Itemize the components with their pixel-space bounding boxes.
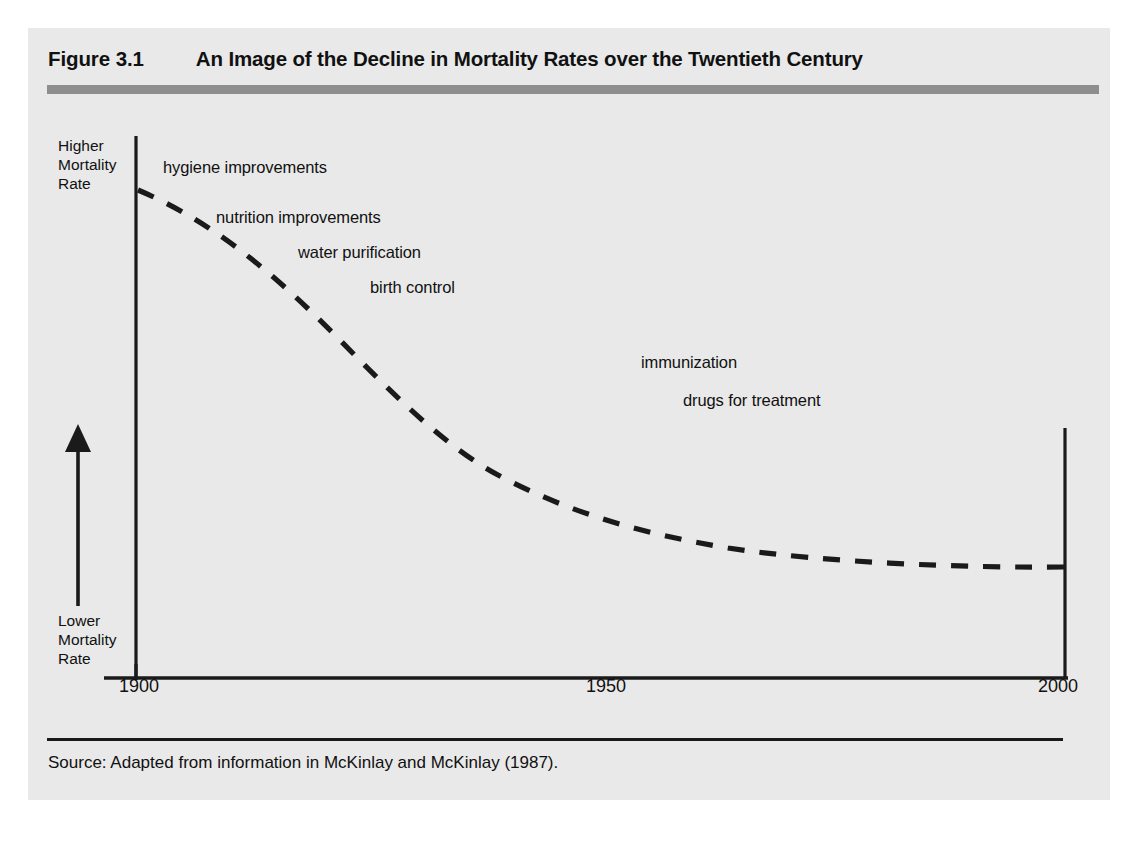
annotation-immunization: immunization [641,353,737,372]
source-note: Source: Adapted from information in McKi… [48,753,558,773]
annotation-hygiene-improvements: hygiene improvements [163,158,327,177]
annotation-birth-control: birth control [370,278,455,297]
mortality-decline-curve [138,190,1065,567]
annotation-drugs-for-treatment: drugs for treatment [683,391,821,410]
y-axis-top-label: Higher Mortality Rate [58,136,117,193]
figure-panel: Figure 3.1 An Image of the Decline in Mo… [28,28,1110,800]
source-divider-rule [47,738,1063,741]
chart-svg [28,28,1110,800]
x-tick-label-2000: 2000 [1038,676,1078,697]
annotation-water-purification: water purification [298,243,421,262]
y-axis-bottom-label: Lower Mortality Rate [58,611,117,668]
annotation-nutrition-improvements: nutrition improvements [216,208,381,227]
up-arrow-icon [65,424,91,606]
x-tick-label-1950: 1950 [586,676,626,697]
x-tick-label-1900: 1900 [119,676,159,697]
chart-plot-area: Higher Mortality Rate Lower Mortality Ra… [28,28,1110,800]
